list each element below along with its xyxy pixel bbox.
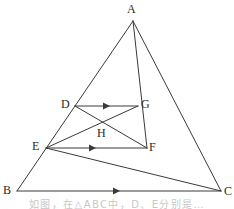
arrow-bc-icon <box>113 187 120 194</box>
vertex-label-a: A <box>127 3 136 15</box>
segment-ec <box>46 148 221 191</box>
arrow-ef-icon <box>89 144 96 151</box>
segment-eg <box>46 106 138 148</box>
vertex-label-g: G <box>141 98 150 110</box>
arrow-dg-icon <box>103 102 110 109</box>
vertex-label-f: F <box>149 141 156 153</box>
vertex-label-d: D <box>61 98 70 110</box>
caption-text: 如图，在△ABC中，D、E分别是… <box>0 199 234 209</box>
vertex-label-e: E <box>32 140 39 152</box>
segment-df <box>75 106 147 148</box>
vertex-label-c: C <box>224 185 232 197</box>
vertex-label-b: B <box>3 184 11 196</box>
geometry-canvas <box>0 0 234 209</box>
vertex-label-h: H <box>97 127 106 139</box>
geometry-figure: A B C D E F G H 如图，在△ABC中，D、E分别是… <box>0 0 234 209</box>
segment-af <box>133 21 147 148</box>
